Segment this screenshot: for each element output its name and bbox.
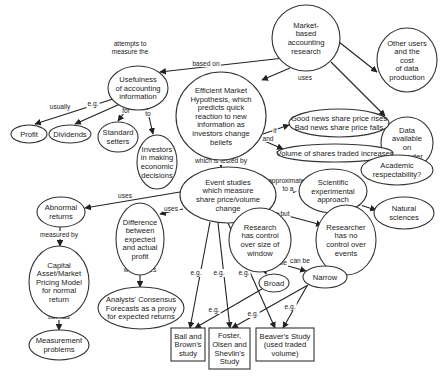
edge-label: uses [298, 74, 313, 81]
edge-label: attempts tomeasure the [112, 40, 149, 55]
node-label: Abnormalreturns [45, 203, 78, 221]
edge-label: if [273, 127, 276, 134]
edge-mba-to-usefulness [160, 58, 284, 72]
node-measurement[interactable]: Measurementproblems [29, 330, 89, 360]
edge-label: measured by [40, 231, 79, 239]
node-abnormal-returns[interactable]: Abnormalreturns [37, 197, 85, 227]
edge-usefulness-to-profit [35, 99, 113, 124]
node-profit[interactable]: Profit [11, 125, 47, 143]
node-label: Standardsetters [103, 128, 134, 146]
node-label: Investorsin makingeconomicdecisions [141, 145, 174, 180]
edge-mba-to-emh [262, 68, 290, 80]
node-label: Naturalsciences [389, 204, 419, 222]
edge-label: e.g. [88, 100, 99, 108]
edge-label: e.g. [248, 310, 259, 318]
node-dividends[interactable]: Dividends [49, 125, 91, 143]
edge-label: uses [118, 192, 133, 199]
node-investors[interactable]: Investorsin makingeconomicdecisions [137, 135, 177, 189]
node-analysts[interactable]: Analysts' ConsensusForecasts as a proxyf… [98, 287, 184, 329]
edge-label: e.g. [285, 303, 296, 311]
concept-map: attempts tomeasure thebased onignoresuse… [0, 0, 445, 383]
node-narrow[interactable]: Narrow [303, 266, 347, 288]
node-label: Profit [20, 130, 39, 139]
node-label: Dividends [53, 130, 87, 139]
node-natural-sciences[interactable]: Naturalsciences [374, 197, 434, 229]
node-emh[interactable]: Efficient MarketHypothesis, whichpredict… [176, 72, 266, 160]
node-scientific[interactable]: Scientificexperimentalapproach [299, 169, 367, 213]
edge-research_control-to-narrow [288, 266, 306, 271]
edge-label: uses [164, 205, 179, 212]
edge-label: e.g. [191, 269, 202, 277]
node-label: Market-basedaccountingresearch [288, 21, 325, 56]
node-label: Volume of shares traded increases [277, 149, 394, 158]
edge-label: e.g. [209, 306, 220, 314]
edge-label: usually [50, 103, 71, 111]
node-ball-brown[interactable]: Ball andBrown'sstudy [171, 328, 205, 361]
node-good-bad-news[interactable]: Good news share price risesBad news shar… [289, 109, 389, 137]
node-label: Efficient MarketHypothesis, whichpredict… [190, 86, 251, 147]
node-label: Good news share price risesBad news shar… [291, 114, 387, 132]
node-research-control[interactable]: Researchhas controlover size ofwindow [229, 208, 291, 272]
node-researcher-no-control[interactable]: Researcherhas nocontrol overevents [316, 205, 376, 275]
node-beaver[interactable]: Beaver's Study(used tradedvolume) [256, 328, 314, 361]
node-foster[interactable]: Foster,Olsen andShevlin'sStudy [209, 328, 250, 369]
node-academic[interactable]: Academicrespectability? [361, 155, 433, 185]
edge-label: to [145, 110, 151, 117]
node-label: Analysts' ConsensusForecasts as a proxyf… [106, 295, 177, 321]
node-broad[interactable]: Broad [259, 274, 289, 292]
node-mba[interactable]: Market-basedaccountingresearch [272, 5, 340, 71]
node-label: Broad [264, 279, 284, 288]
edge-label: but [280, 210, 289, 217]
edge-mba-to-other_users [339, 42, 377, 72]
edge-label: e.g. [214, 269, 225, 277]
edge-label: can be [290, 257, 310, 264]
edge-broad-to-ball_brown [195, 289, 262, 328]
node-standard-setters[interactable]: Standardsetters [98, 122, 138, 152]
node-usefulness[interactable]: Usefulnessof accountinginformation [108, 66, 168, 110]
edge-mba-to-data_available [331, 62, 385, 116]
node-other-users[interactable]: Other usersand thecostof dataproduction [377, 28, 437, 92]
node-label: Usefulnessof accountinginformation [115, 75, 160, 101]
node-label: Narrow [313, 273, 338, 282]
node-capm[interactable]: CapitalAsset/MarketPricing Modelfor norm… [29, 246, 89, 318]
edge-label: based on [192, 60, 219, 67]
node-difference[interactable]: Differencebetweenexpectedand actualprofi… [116, 203, 164, 275]
edge-label: and [262, 135, 273, 142]
